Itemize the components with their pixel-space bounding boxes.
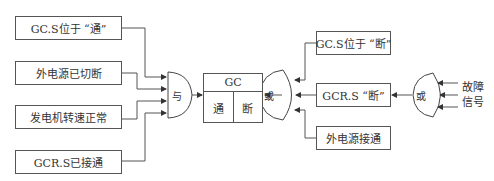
condition-generator-speed-normal: 发电机转速正常 — [15, 105, 122, 129]
condition-label: 发电机转速正常 — [30, 109, 107, 125]
or-gate-mid-label: 或 — [264, 88, 274, 103]
condition-gcr-s-off: GCR.S “断” — [316, 83, 391, 107]
condition-label: GCR.S已接通 — [34, 154, 104, 170]
gc-off-cell: 断 — [233, 92, 263, 123]
gc-block: GC 通 断 — [203, 73, 263, 123]
fault-signal-line1: 故障 — [462, 78, 484, 94]
condition-label: 外电源已切断 — [36, 65, 102, 81]
and-gate-label: 与 — [172, 88, 182, 103]
condition-label: GCR.S “断” — [322, 87, 384, 103]
condition-external-power-cut: 外电源已切断 — [15, 61, 122, 85]
condition-label: 外电源接通 — [326, 130, 381, 146]
condition-gc-s-on: GC.S位于 “通” — [15, 16, 122, 40]
gc-title: GC — [204, 74, 262, 92]
or-gate-right-label: 或 — [416, 88, 426, 103]
condition-external-power-on: 外电源接通 — [316, 126, 391, 150]
condition-label: GC.S位于 “断” — [316, 35, 392, 51]
fault-signal-line2: 信号 — [462, 93, 484, 109]
condition-gc-s-off: GC.S位于 “断” — [316, 31, 391, 55]
condition-gcr-s-connected: GCR.S已接通 — [15, 150, 122, 174]
condition-label: GC.S位于 “通” — [31, 20, 107, 36]
gc-on-cell: 通 — [204, 92, 233, 123]
